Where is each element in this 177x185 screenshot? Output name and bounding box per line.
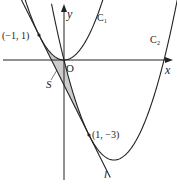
diagram-canvas: y x O C₁ C₂ (−1, 1) (1, −3) S l — [0, 0, 177, 185]
c1-label: C₁ — [97, 12, 107, 23]
c2-label: C₂ — [150, 34, 160, 45]
origin-label: O — [66, 62, 74, 74]
point-marker — [37, 33, 40, 36]
y-axis-label: y — [66, 7, 73, 21]
diagram-svg: y x O C₁ C₂ (−1, 1) (1, −3) S l — [0, 0, 177, 185]
point-label-1-minus3: (1, −3) — [92, 129, 119, 141]
tangent-line-l — [20, 0, 110, 178]
line-label-l: l — [104, 168, 107, 180]
x-axis-label: x — [164, 63, 171, 77]
region-pointer — [51, 70, 57, 80]
point-label-minus1-1: (−1, 1) — [2, 30, 29, 42]
point-marker — [87, 133, 90, 136]
curves — [20, 0, 177, 177]
